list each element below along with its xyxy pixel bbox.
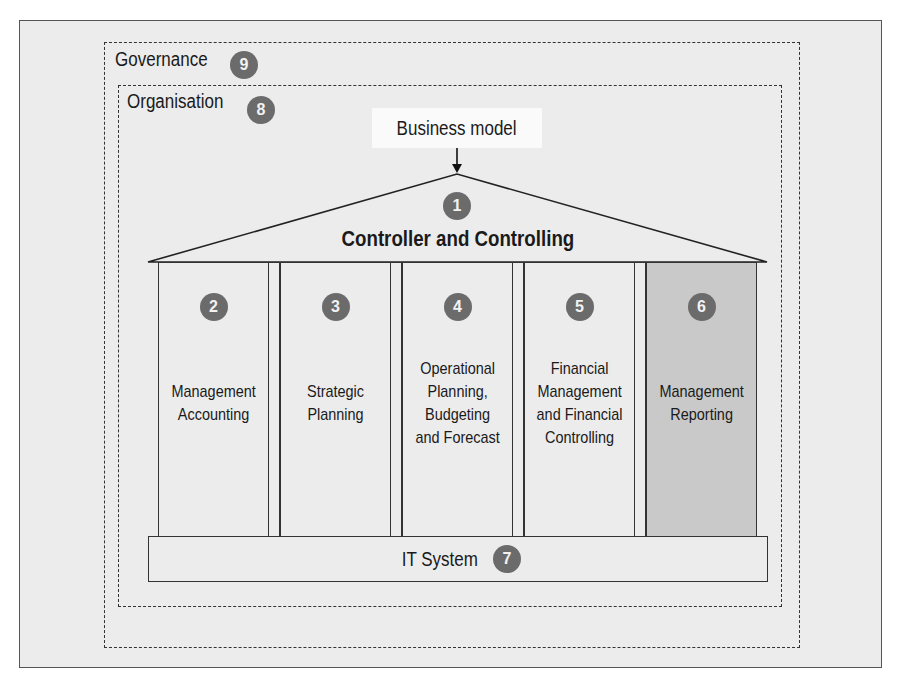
pillar-gap <box>390 262 402 536</box>
pillar-gap <box>634 262 646 536</box>
roof-number-badge: 1 <box>443 192 471 220</box>
pillar-operational-planning: 4 Operational Planning, Budgeting and Fo… <box>402 262 513 536</box>
pillar-label: Management Reporting <box>659 380 743 426</box>
pillar-strategic-planning: 3 Strategic Planning <box>280 262 391 536</box>
pillar-label: Financial Management and Financial Contr… <box>537 357 623 449</box>
arrow-down-icon <box>452 164 462 173</box>
pillar-management-reporting: 6 Management Reporting <box>646 262 757 536</box>
pillar-label: Operational Planning, Budgeting and Fore… <box>415 357 499 449</box>
it-system-label: IT System <box>402 548 478 571</box>
pillar-label: Strategic Planning <box>307 380 364 426</box>
pillar-gap <box>268 262 280 536</box>
pillar-financial-management: 5 Financial Management and Financial Con… <box>524 262 635 536</box>
pillar-gap <box>512 262 524 536</box>
roof-title: Controller and Controlling <box>300 226 616 252</box>
it-system-number-badge: 7 <box>493 545 521 573</box>
roof-title-text: Controller and Controlling <box>342 226 575 252</box>
pillar-label: Management Accounting <box>171 380 255 426</box>
pillar-management-accounting: 2 Management Accounting <box>158 262 269 536</box>
it-system-foundation: IT System 7 <box>148 536 768 582</box>
